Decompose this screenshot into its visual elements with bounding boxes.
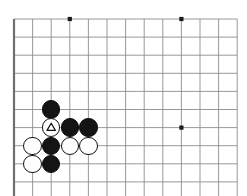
triangle-mark-icon (43, 119, 59, 135)
go-board-diagram (0, 0, 247, 196)
stone-white-3[interactable] (79, 137, 97, 155)
stone-white-4[interactable] (23, 155, 41, 173)
stone-black-3[interactable] (79, 118, 97, 136)
stone-black-5[interactable] (42, 155, 60, 173)
stone-black-2[interactable] (61, 118, 79, 136)
stone-white-1[interactable] (23, 137, 41, 155)
stone-black-4[interactable] (42, 137, 60, 155)
stone-black-1[interactable] (42, 100, 60, 118)
go-stones-layer (0, 0, 247, 196)
stone-white-2[interactable] (61, 137, 79, 155)
stone-white-triangle[interactable] (42, 118, 60, 136)
